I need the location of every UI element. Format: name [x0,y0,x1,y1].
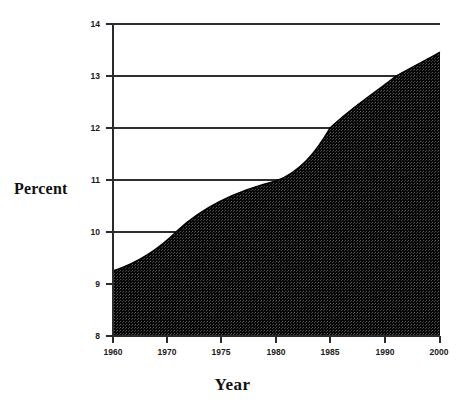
y-tick-label-8: 8 [78,331,100,341]
x-tick-marks [113,336,440,343]
y-tick-label-12: 12 [78,123,100,133]
y-tick-label-14: 14 [78,19,100,29]
plot-canvas [0,0,465,412]
area-series-percent [113,45,440,337]
x-tick-label-1975: 1975 [212,347,231,357]
x-tick-label-1985: 1985 [321,347,340,357]
y-tick-label-13: 13 [78,71,100,81]
y-axis-title: Percent [14,180,68,198]
x-tick-label-1980: 1980 [267,347,286,357]
x-axis-title: Year [0,375,465,395]
x-tick-label-1970: 1970 [158,347,177,357]
y-tick-label-11: 11 [78,175,100,185]
x-tick-label-1960: 1960 [104,347,123,357]
y-tick-label-10: 10 [78,227,100,237]
y-tick-marks [106,24,113,336]
x-tick-label-1990: 1990 [376,347,395,357]
chart-figure: Percent Year 14 13 12 11 10 9 8 1960 197… [0,0,465,412]
y-tick-label-9: 9 [78,279,100,289]
x-tick-label-2000: 2000 [430,347,449,357]
